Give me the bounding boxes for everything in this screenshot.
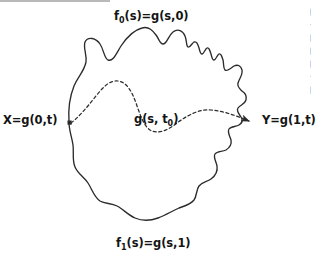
label-y-endpoint: Y=g(1,t) [262, 115, 316, 127]
edge-text-fragment: · [310, 19, 324, 32]
x-endpoint-marker [68, 121, 72, 125]
edge-text-fragment: | [310, 45, 324, 58]
label-g-base: g(s, t [134, 112, 168, 126]
label-f1: f1(s)=g(s,1) [116, 238, 190, 252]
edge-text-fragment: | [310, 58, 324, 71]
label-f1-rest: (s)=g(s,1) [126, 236, 190, 250]
label-f0: f0(s)=g(s,0) [114, 11, 188, 25]
edge-text-fragment: · [310, 71, 324, 84]
edge-text-fragment: | [310, 84, 324, 97]
figure-root: f0(s)=g(s,0) f1(s)=g(s,1) X=g(0,t) Y=g(1… [0, 0, 324, 261]
edge-text-fragment: | [310, 32, 324, 45]
label-g-rest: ) [173, 112, 178, 126]
cropped-edge-text-fragments: |·|||·| [310, 6, 324, 102]
label-f0-rest: (s)=g(s,0) [124, 9, 188, 23]
label-x-endpoint: X=g(0,t) [3, 115, 57, 127]
diagram-canvas [0, 0, 324, 261]
label-g-s-t0: g(s, t0) [134, 114, 178, 128]
edge-text-fragment: | [310, 6, 324, 19]
